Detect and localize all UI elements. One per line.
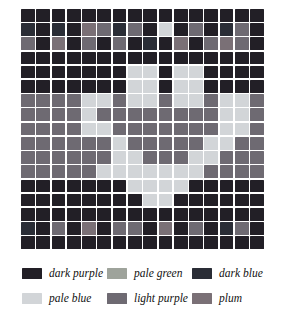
mosaic-cell	[174, 108, 188, 121]
mosaic-cell	[21, 165, 35, 178]
mosaic-cell	[189, 66, 203, 79]
mosaic-cell	[82, 66, 96, 79]
mosaic-cell	[128, 151, 142, 164]
mosaic-cell	[220, 236, 234, 249]
mosaic-cell	[189, 165, 203, 178]
mosaic-cell	[143, 165, 157, 178]
mosaic-cell	[113, 37, 127, 50]
mosaic-cell	[235, 222, 249, 235]
mosaic-cell	[82, 52, 96, 65]
mosaic-cell	[159, 9, 173, 22]
mosaic-cell	[21, 94, 35, 107]
mosaic-cell	[82, 137, 96, 150]
mosaic-cell	[174, 37, 188, 50]
mosaic-cell	[52, 23, 66, 36]
mosaic-cell	[52, 180, 66, 193]
mosaic-cell	[235, 94, 249, 107]
mosaic-cell	[67, 222, 81, 235]
mosaic-cell	[204, 208, 218, 221]
mosaic-cell	[174, 52, 188, 65]
mosaic-cell	[235, 194, 249, 207]
mosaic-cell	[128, 108, 142, 121]
mosaic-cell	[189, 222, 203, 235]
mosaic-cell	[159, 137, 173, 150]
mosaic-cell	[174, 151, 188, 164]
mosaic-cell	[21, 194, 35, 207]
legend-label: plum	[219, 293, 242, 305]
mosaic-cell	[189, 236, 203, 249]
mosaic-cell	[159, 151, 173, 164]
mosaic-cell	[82, 165, 96, 178]
mosaic-cell	[159, 80, 173, 93]
mosaic-cell	[82, 194, 96, 207]
mosaic-cell	[128, 137, 142, 150]
mosaic-cell	[128, 222, 142, 235]
mosaic-cell	[36, 123, 50, 136]
mosaic-cell	[128, 9, 142, 22]
legend-swatch-icon	[192, 268, 212, 279]
mosaic-cell	[52, 194, 66, 207]
mosaic-cell	[36, 80, 50, 93]
mosaic-cell	[159, 222, 173, 235]
mosaic-cell	[250, 37, 264, 50]
mosaic-cell	[67, 137, 81, 150]
mosaic-cell	[220, 80, 234, 93]
legend-item: pale blue	[22, 288, 103, 311]
mosaic-cell	[235, 23, 249, 36]
mosaic-cell	[220, 222, 234, 235]
mosaic-cell	[220, 94, 234, 107]
mosaic-cell	[159, 236, 173, 249]
mosaic-cell	[143, 108, 157, 121]
mosaic-cell	[235, 66, 249, 79]
mosaic-cell	[235, 208, 249, 221]
mosaic-cell	[97, 194, 111, 207]
mosaic-cell	[113, 165, 127, 178]
legend-item: dark purple	[22, 262, 103, 285]
mosaic-cell	[113, 23, 127, 36]
mosaic-cell	[189, 123, 203, 136]
mosaic-cell	[250, 94, 264, 107]
mosaic-cell	[113, 208, 127, 221]
mosaic-cell	[204, 137, 218, 150]
mosaic-cell	[97, 222, 111, 235]
mosaic-cell	[250, 123, 264, 136]
mosaic-cell	[143, 94, 157, 107]
mosaic-cell	[204, 180, 218, 193]
mosaic-cell	[250, 108, 264, 121]
mosaic-cell	[67, 236, 81, 249]
mosaic-cell	[204, 23, 218, 36]
pixel-mosaic-page: dark purplepale greendark bluepale bluel…	[0, 0, 284, 319]
mosaic-cell	[143, 23, 157, 36]
mosaic-cell	[82, 23, 96, 36]
mosaic-cell	[174, 94, 188, 107]
mosaic-cell	[250, 180, 264, 193]
mosaic-cell	[21, 37, 35, 50]
mosaic-cell	[52, 94, 66, 107]
mosaic-cell	[220, 108, 234, 121]
mosaic-cell	[67, 52, 81, 65]
mosaic-cell	[174, 236, 188, 249]
mosaic-cell	[82, 222, 96, 235]
mosaic-cell	[36, 66, 50, 79]
mosaic-cell	[97, 151, 111, 164]
mosaic-cell	[67, 208, 81, 221]
mosaic-cell	[21, 108, 35, 121]
mosaic-cell	[67, 180, 81, 193]
mosaic-cell	[143, 37, 157, 50]
mosaic-cell	[128, 208, 142, 221]
mosaic-cell	[204, 123, 218, 136]
mosaic-cell	[52, 208, 66, 221]
mosaic-cell	[36, 222, 50, 235]
mosaic-cell	[52, 52, 66, 65]
mosaic-cell	[21, 52, 35, 65]
mosaic-cell	[235, 108, 249, 121]
mosaic-cell	[21, 208, 35, 221]
mosaic-cell	[174, 208, 188, 221]
mosaic-cell	[128, 52, 142, 65]
mosaic-cell	[97, 37, 111, 50]
mosaic-cell	[36, 194, 50, 207]
mosaic-cell	[204, 194, 218, 207]
mosaic-cell	[36, 180, 50, 193]
mosaic-cell	[21, 9, 35, 22]
mosaic-cell	[52, 222, 66, 235]
